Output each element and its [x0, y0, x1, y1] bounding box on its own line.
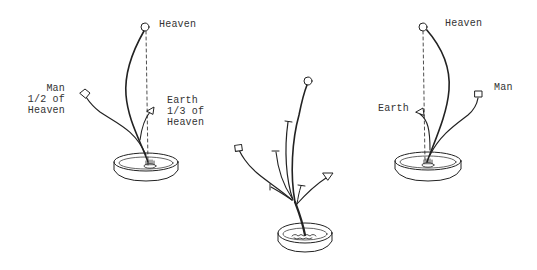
ikebana-diagram: Heaven Man 1/2 of Heaven Earth 1/3 of He…	[0, 0, 537, 270]
right-arrangement	[395, 23, 482, 181]
right-heaven-label: Heaven	[445, 18, 482, 29]
right-man-marker	[475, 91, 482, 97]
left-earth-label-line3: Heaven	[167, 117, 204, 128]
right-heaven-marker	[419, 23, 427, 31]
left-man-label-line3: Heaven	[20, 105, 65, 116]
right-dish	[395, 152, 461, 181]
left-earth-stem	[140, 112, 150, 140]
left-man-label-line2: 1/2 of	[20, 94, 65, 105]
middle-dish	[278, 223, 332, 252]
left-heaven-marker	[141, 23, 149, 31]
left-heaven-label: Heaven	[159, 19, 196, 30]
left-man-stem	[86, 97, 146, 155]
right-man-stem	[430, 98, 478, 155]
left-kenzan	[144, 160, 156, 168]
left-heaven-stem	[126, 31, 148, 162]
left-man-label: Man 1/2 of Heaven	[20, 83, 65, 116]
middle-trunk	[295, 202, 305, 235]
middle-heaven-stem	[292, 85, 307, 202]
middle-man-stem	[239, 150, 292, 200]
left-earth-marker	[147, 107, 154, 114]
ikebana-drawing	[0, 0, 537, 270]
left-heaven-axis	[146, 31, 148, 165]
left-earth-label-line1: Earth	[167, 95, 204, 106]
left-man-label-line1: Man	[20, 83, 65, 94]
left-earth-label-line2: 1/3 of	[167, 106, 204, 117]
left-man-marker	[80, 89, 90, 98]
middle-earth-stem	[296, 178, 326, 205]
right-earth-stem	[420, 114, 430, 150]
right-earth-marker	[416, 108, 424, 115]
left-earth-label: Earth 1/3 of Heaven	[167, 95, 204, 128]
right-heaven-axis	[423, 31, 425, 162]
left-arrangement	[80, 23, 178, 181]
right-earth-label: Earth	[378, 103, 409, 114]
right-man-label: Man	[494, 82, 513, 93]
middle-arrangement	[235, 77, 333, 252]
middle-heaven-marker	[304, 77, 312, 85]
middle-man-marker	[235, 144, 243, 151]
